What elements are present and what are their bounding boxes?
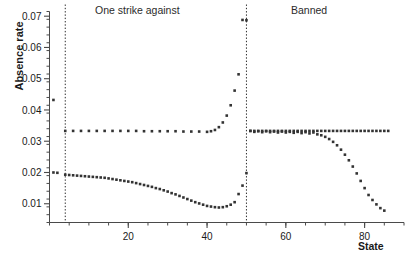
data-point <box>229 104 232 107</box>
data-point <box>344 153 347 156</box>
data-point <box>363 130 366 133</box>
data-point <box>237 73 240 76</box>
data-point <box>123 180 126 183</box>
axis-layer: 0.010.020.030.040.050.060.0720406080 <box>22 11 404 242</box>
data-point <box>348 130 351 133</box>
x-tick-label: 20 <box>123 231 135 242</box>
reference-line-layer <box>65 5 246 223</box>
data-point <box>111 130 114 133</box>
data-point <box>285 131 288 134</box>
data-point <box>371 199 374 202</box>
data-point <box>316 133 319 136</box>
data-point <box>158 188 161 191</box>
data-point <box>375 130 378 133</box>
data-point <box>320 134 323 137</box>
data-point <box>210 205 213 208</box>
data-point <box>225 205 228 208</box>
data-point <box>186 198 189 201</box>
data-point <box>265 130 268 133</box>
data-point <box>324 130 327 133</box>
data-point <box>80 130 83 133</box>
data-point <box>88 130 91 133</box>
data-point <box>95 130 98 133</box>
data-point <box>340 148 343 151</box>
data-point <box>127 180 130 183</box>
data-point <box>269 131 272 134</box>
data-point <box>119 130 122 133</box>
data-point <box>178 195 181 198</box>
data-point <box>92 176 95 179</box>
data-point <box>324 136 327 139</box>
data-point <box>174 193 177 196</box>
data-point <box>80 175 83 178</box>
data-point <box>72 174 75 177</box>
data-point <box>336 144 339 147</box>
data-point <box>194 201 197 204</box>
data-point <box>202 203 205 206</box>
y-axis-title: Absence rate <box>11 6 27 106</box>
data-point <box>56 172 59 175</box>
data-point <box>72 130 75 133</box>
data-point <box>273 130 276 133</box>
data-point <box>182 196 185 199</box>
data-point <box>383 130 386 133</box>
data-point <box>139 183 142 186</box>
data-point <box>241 19 244 22</box>
y-tick-label: 0.04 <box>22 105 42 116</box>
data-point <box>182 130 185 133</box>
data-point <box>328 138 331 141</box>
data-point <box>135 130 138 133</box>
data-point <box>68 174 71 177</box>
data-point <box>340 130 343 133</box>
data-point <box>198 130 201 133</box>
data-point <box>166 130 169 133</box>
data-point <box>371 130 374 133</box>
data-point <box>147 185 150 188</box>
data-point <box>375 203 378 206</box>
data-point <box>95 176 98 179</box>
data-point <box>64 173 67 176</box>
data-point <box>206 131 209 134</box>
data-point <box>206 205 209 208</box>
data-point <box>257 130 260 133</box>
data-point <box>99 176 102 179</box>
data-point <box>76 174 79 177</box>
data-point <box>387 130 390 133</box>
data-point <box>190 199 193 202</box>
data-points-layer <box>52 19 389 212</box>
data-point <box>308 132 311 135</box>
data-point <box>162 189 165 192</box>
data-point <box>84 175 87 178</box>
data-point <box>119 179 122 182</box>
section-label-banned: Banned <box>291 4 327 16</box>
data-point <box>316 130 319 133</box>
data-point <box>229 203 232 206</box>
data-point <box>151 130 154 133</box>
x-tick-label: 40 <box>201 231 213 242</box>
data-point <box>308 130 311 133</box>
data-point <box>277 131 280 134</box>
data-point <box>107 177 110 180</box>
data-point <box>320 130 323 133</box>
data-point <box>166 190 169 193</box>
data-point <box>344 130 347 133</box>
data-point <box>348 159 351 162</box>
data-point <box>135 182 138 185</box>
y-tick-label: 0.01 <box>22 198 42 209</box>
data-point <box>170 192 173 195</box>
data-point <box>359 180 362 183</box>
data-point <box>151 186 154 189</box>
data-point <box>292 131 295 134</box>
data-point <box>218 206 221 209</box>
scatter-plot-canvas: 0.010.020.030.040.050.060.0720406080 <box>0 0 411 260</box>
data-point <box>52 171 55 174</box>
data-point <box>288 131 291 134</box>
data-point <box>143 130 146 133</box>
data-point <box>328 130 331 133</box>
data-point <box>359 130 362 133</box>
data-point <box>367 194 370 197</box>
data-point <box>332 141 335 144</box>
data-point <box>198 202 201 205</box>
y-tick-label: 0.02 <box>22 167 42 178</box>
data-point <box>214 129 217 132</box>
